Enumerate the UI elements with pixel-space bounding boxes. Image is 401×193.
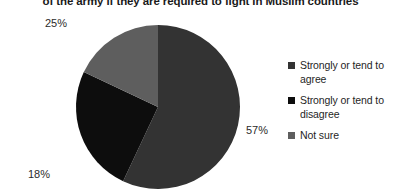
slice-value-label-agree: 57%: [246, 124, 268, 137]
legend-item-agree[interactable]: Strongly or tend to agree: [288, 59, 401, 86]
legend-swatch-icon-disagree: [288, 97, 295, 104]
pie-chart-figure: of the army if they are required to figh…: [0, 0, 401, 193]
legend-swatch-icon-agree: [288, 62, 295, 69]
pie-slices: [76, 25, 240, 189]
slice-value-label-disagree: 25%: [45, 17, 67, 30]
legend-label-disagree: Strongly or tend to disagree: [300, 94, 401, 121]
chart-legend: Strongly or tend to agree Strongly or te…: [288, 59, 401, 151]
legend-label-not-sure: Not sure: [300, 129, 339, 143]
legend-item-not-sure[interactable]: Not sure: [288, 129, 401, 143]
slice-value-label-not-sure: 18%: [28, 168, 50, 181]
legend-swatch-icon-not-sure: [288, 132, 295, 139]
legend-label-agree: Strongly or tend to agree: [300, 59, 401, 86]
legend-item-disagree[interactable]: Strongly or tend to disagree: [288, 94, 401, 121]
